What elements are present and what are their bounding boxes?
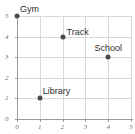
gridline-vertical <box>40 16 41 119</box>
x-tick-label: 0 <box>15 124 19 131</box>
gridline-vertical <box>63 16 64 119</box>
x-tick-label: 5 <box>129 124 133 131</box>
x-tick-label: 3 <box>84 124 88 131</box>
y-tick-label: 1 <box>5 95 9 102</box>
scatter-plot-chart: 012345012345 GymTrackSchoolLibrary <box>0 0 135 134</box>
y-axis-line <box>17 14 18 120</box>
y-tick-label: 0 <box>5 116 9 123</box>
y-tick-mark <box>15 78 18 79</box>
gridline-horizontal <box>17 98 131 99</box>
gridline-horizontal <box>17 78 131 79</box>
y-tick-label: 2 <box>5 74 9 81</box>
data-point <box>37 96 42 101</box>
x-tick-mark <box>85 119 86 122</box>
gridline-horizontal <box>17 16 131 17</box>
y-tick-mark <box>15 57 18 58</box>
data-point <box>106 55 111 60</box>
x-axis-line <box>15 119 133 120</box>
data-point-label: School <box>94 44 122 53</box>
gridline-vertical <box>108 16 109 119</box>
x-tick-mark <box>63 119 64 122</box>
y-tick-label: 4 <box>5 33 9 40</box>
x-tick-mark <box>40 119 41 122</box>
y-tick-label: 5 <box>5 13 9 20</box>
y-tick-mark <box>15 119 18 120</box>
x-tick-label: 4 <box>106 124 110 131</box>
x-tick-label: 1 <box>38 124 42 131</box>
data-point-label: Track <box>67 28 89 37</box>
x-tick-mark <box>108 119 109 122</box>
y-tick-mark <box>15 98 18 99</box>
y-tick-mark <box>15 37 18 38</box>
data-point <box>60 34 65 39</box>
data-point-label: Gym <box>20 5 39 14</box>
y-tick-label: 3 <box>5 54 9 61</box>
x-tick-label: 2 <box>61 124 65 131</box>
gridline-horizontal <box>17 57 131 58</box>
data-point <box>15 14 20 19</box>
gridline-horizontal <box>17 37 131 38</box>
data-point-label: Library <box>43 87 71 96</box>
gridline-vertical <box>131 16 132 119</box>
x-tick-mark <box>131 119 132 122</box>
